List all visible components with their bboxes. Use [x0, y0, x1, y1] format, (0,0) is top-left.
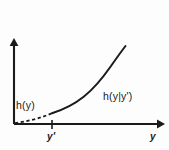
- label-conditional-hazard: h(y|y'): [103, 90, 132, 102]
- curve-conditional-hazard-solid: [52, 46, 126, 113]
- figure-canvas: [0, 0, 169, 150]
- x-axis-arrow-icon: [157, 120, 165, 129]
- y-axis-arrow-icon: [10, 38, 19, 46]
- tick-label-yprime: y': [47, 131, 55, 142]
- hazard-function-figure: h(y) h(y|y') y' y: [0, 0, 169, 150]
- axis-label-y: y: [150, 131, 156, 142]
- curve-baseline-hazard-dashed: [15, 113, 52, 123]
- label-baseline-hazard: h(y): [16, 99, 35, 111]
